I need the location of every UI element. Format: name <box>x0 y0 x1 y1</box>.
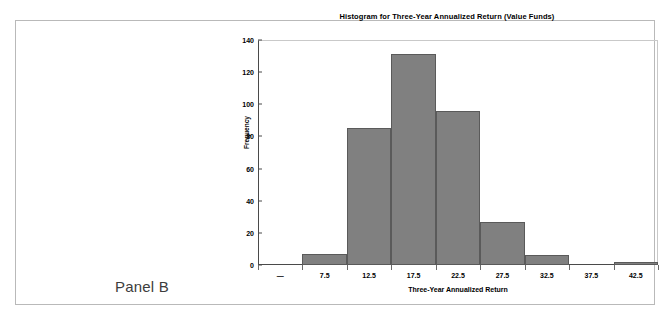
y-axis-tick-labels: 020406080100120140 <box>232 40 254 265</box>
histogram-bar <box>525 255 569 265</box>
histogram-bar <box>480 222 524 265</box>
x-axis-tick-mark <box>525 265 526 270</box>
x-axis-tick-label: 22.5 <box>451 272 465 279</box>
y-axis-tick-label: 20 <box>246 229 254 236</box>
histogram-bar <box>302 254 346 265</box>
x-axis-tick-mark <box>569 265 570 270</box>
y-axis-tick-label: 0 <box>250 262 254 269</box>
y-axis-tick-mark <box>258 136 262 137</box>
x-axis-tick-mark <box>480 265 481 270</box>
x-axis-tick-label: 12.5 <box>362 272 376 279</box>
plot-area <box>258 40 658 265</box>
x-axis-tick-label: 37.5 <box>585 272 599 279</box>
y-axis-tick-label: 80 <box>246 133 254 140</box>
x-axis-tick-label: 32.5 <box>540 272 554 279</box>
histogram-bar <box>391 54 435 265</box>
y-axis-tick-label: 120 <box>242 69 254 76</box>
x-axis-tick-mark <box>347 265 348 270</box>
y-axis-tick-mark <box>258 168 262 169</box>
x-axis-tick-mark <box>391 265 392 270</box>
y-axis-tick-mark <box>258 232 262 233</box>
x-axis-tick-label: 27.5 <box>496 272 510 279</box>
y-axis-tick-label: 100 <box>242 101 254 108</box>
x-axis-tick-label: 42.5 <box>629 272 643 279</box>
x-axis-tick-mark <box>436 265 437 270</box>
x-axis-tick-mark <box>258 265 259 270</box>
x-axis-title: Three-Year Annualized Return <box>258 286 658 293</box>
y-axis-tick-mark <box>258 200 262 201</box>
histogram-chart: Histogram for Three-Year Annualized Retu… <box>232 8 662 300</box>
chart-title: Histogram for Three-Year Annualized Retu… <box>232 12 662 21</box>
y-axis-tick-mark <box>258 72 262 73</box>
x-axis-tick-label: 17.5 <box>407 272 421 279</box>
histogram-bar <box>614 262 658 265</box>
y-axis-tick-label: 40 <box>246 197 254 204</box>
x-axis-tick-label: 7.5 <box>320 272 330 279</box>
histogram-bar <box>436 111 480 265</box>
x-axis-tick-mark <box>658 265 659 270</box>
histogram-bar <box>347 128 391 265</box>
x-axis-tick-mark <box>302 265 303 270</box>
x-axis-tick-label: — <box>277 272 284 279</box>
y-axis-tick-label: 140 <box>242 37 254 44</box>
y-axis-tick-mark <box>258 40 262 41</box>
panel-label: Panel B <box>115 278 169 295</box>
x-axis-tick-mark <box>614 265 615 270</box>
y-axis-tick-mark <box>258 104 262 105</box>
y-axis-tick-label: 60 <box>246 165 254 172</box>
